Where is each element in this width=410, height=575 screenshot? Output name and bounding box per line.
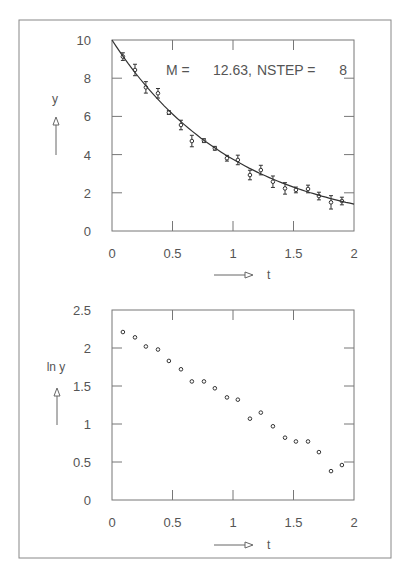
data-point-marker xyxy=(248,173,252,177)
data-point-marker xyxy=(271,180,275,184)
arrow-up-icon xyxy=(53,117,59,125)
data-point-marker xyxy=(144,345,148,349)
y-tick-label: 2.5 xyxy=(73,303,91,318)
x-tick-label: 0.5 xyxy=(163,246,181,261)
x-tick-label: 0 xyxy=(108,246,115,261)
data-point-marker xyxy=(190,380,194,384)
y-tick-label: 0 xyxy=(84,224,91,239)
y-tick-label: 10 xyxy=(77,33,91,48)
y-axis-label-group: y xyxy=(52,92,59,155)
fit-annotation: M =12.63,NSTEP =8 xyxy=(166,62,347,78)
data-point-marker xyxy=(283,187,287,191)
x-axis-label: t xyxy=(267,538,271,552)
y-axis-label-group: ln y xyxy=(47,360,66,425)
y-tick-label: 4 xyxy=(84,148,91,163)
y-axis-label: y xyxy=(52,92,58,106)
data-point-marker xyxy=(225,396,229,400)
data-point-marker xyxy=(156,91,160,95)
data-point-marker xyxy=(259,411,263,415)
data-point-marker xyxy=(294,440,298,444)
arrow-up-icon xyxy=(54,388,60,396)
nstep-label: NSTEP = xyxy=(257,62,316,78)
data-point-marker xyxy=(317,450,321,454)
data-point-marker xyxy=(190,139,194,143)
data-point-marker xyxy=(179,123,183,127)
y-axis-label: ln y xyxy=(47,360,66,374)
x-tick-label: 0.5 xyxy=(163,515,181,530)
data-point-marker xyxy=(306,187,310,191)
figure: 00.511.520246810tyM =12.63,NSTEP =8 00.5… xyxy=(0,0,410,575)
data-point-marker xyxy=(248,417,252,421)
data-point-marker xyxy=(156,348,160,352)
data-point-marker xyxy=(202,380,206,384)
data-point-marker xyxy=(259,168,263,172)
data-point-marker xyxy=(121,330,125,334)
data-point-marker xyxy=(329,469,333,473)
x-tick-label: 0 xyxy=(108,515,115,530)
x-tick-label: 1 xyxy=(229,246,236,261)
y-tick-label: 1 xyxy=(84,417,91,432)
data-point-marker xyxy=(133,336,137,340)
y-tick-label: 1.5 xyxy=(73,379,91,394)
x-tick-label: 2 xyxy=(350,246,357,261)
x-tick-label: 2 xyxy=(350,515,357,530)
outer-frame xyxy=(19,20,391,558)
arrow-right-icon xyxy=(245,272,253,278)
y-tick-label: 6 xyxy=(84,109,91,124)
data-point-marker xyxy=(340,463,344,467)
data-point-marker xyxy=(306,440,310,444)
data-point-marker xyxy=(213,386,217,390)
data-point-marker xyxy=(236,398,240,402)
x-axis-label-group: t xyxy=(214,538,271,552)
data-point-marker xyxy=(271,424,275,428)
x-tick-label: 1.5 xyxy=(284,515,302,530)
m-label: M = xyxy=(166,62,190,78)
bottom-chart-panel: 00.511.5200.511.522.5tln y xyxy=(47,303,358,552)
m-value: 12.63, xyxy=(213,62,252,78)
x-axis-label: t xyxy=(267,268,271,282)
data-point-marker xyxy=(283,436,287,440)
data-point-marker xyxy=(179,367,183,371)
x-tick-label: 1 xyxy=(229,515,236,530)
data-point-marker xyxy=(167,359,171,363)
x-tick-label: 1.5 xyxy=(284,246,302,261)
y-tick-label: 0 xyxy=(84,493,91,508)
y-tick-label: 2 xyxy=(84,341,91,356)
plot-area-frame xyxy=(112,310,354,500)
y-tick-label: 8 xyxy=(84,71,91,86)
top-chart-panel: 00.511.520246810tyM =12.63,NSTEP =8 xyxy=(52,33,358,282)
nstep-value: 8 xyxy=(339,62,347,78)
data-point-marker xyxy=(329,201,333,205)
y-tick-label: 2 xyxy=(84,186,91,201)
data-points xyxy=(121,330,344,473)
y-tick-label: 0.5 xyxy=(73,455,91,470)
x-axis-label-group: t xyxy=(214,268,271,282)
arrow-right-icon xyxy=(245,542,253,548)
